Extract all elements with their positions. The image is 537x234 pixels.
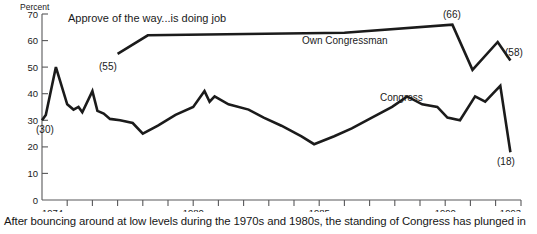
x-axis-ticks bbox=[67, 200, 521, 206]
annotation-58: (58) bbox=[505, 47, 523, 58]
y-tick-label-60: 60 bbox=[27, 35, 38, 46]
figure-caption: After bouncing around at low levels duri… bbox=[4, 214, 537, 229]
series-line-own-congressman bbox=[118, 25, 511, 70]
series-line-congress bbox=[42, 67, 510, 152]
y-axis-ticks bbox=[42, 14, 48, 173]
x-tick-label-1990: 1990 bbox=[435, 207, 456, 213]
chart-figure: Percent Approve of the way...is doing jo… bbox=[0, 0, 537, 234]
y-tick-label-40: 40 bbox=[27, 88, 38, 99]
y-tick-label-0: 0 bbox=[33, 195, 38, 206]
y-tick-label-20: 20 bbox=[27, 141, 38, 152]
x-axis-tick-labels: 1974 1980 1985 1990 1993 bbox=[42, 207, 521, 213]
line-chart-svg: Percent Approve of the way...is doing jo… bbox=[0, 0, 537, 212]
x-tick-label-1985: 1985 bbox=[309, 207, 330, 213]
series-label-congress: Congress bbox=[380, 92, 423, 103]
y-tick-label-10: 10 bbox=[27, 168, 38, 179]
annotation-55: (55) bbox=[99, 61, 117, 72]
annotation-66: (66) bbox=[443, 9, 461, 20]
series-label-own-congressman: Own Congressman bbox=[302, 35, 388, 46]
annotation-18: (18) bbox=[497, 156, 515, 167]
y-tick-label-70: 70 bbox=[27, 9, 38, 20]
annotation-30: (30) bbox=[36, 124, 54, 135]
x-tick-label-1980: 1980 bbox=[183, 207, 204, 213]
x-tick-label-1974: 1974 bbox=[42, 207, 63, 213]
chart-title: Approve of the way...is doing job bbox=[68, 12, 226, 24]
x-tick-label-1993: 1993 bbox=[500, 207, 521, 213]
y-axis-tick-labels: 70 60 50 40 30 20 10 0 bbox=[27, 9, 38, 206]
y-tick-label-50: 50 bbox=[27, 62, 38, 73]
